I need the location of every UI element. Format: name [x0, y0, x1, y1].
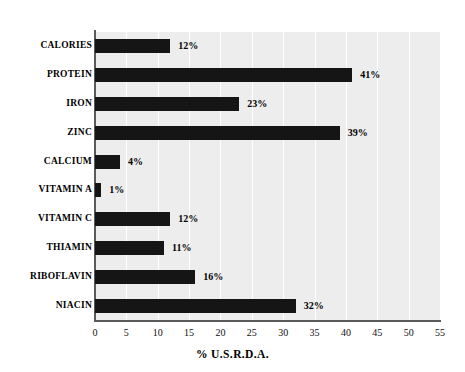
- bar: [95, 212, 170, 226]
- x-tick-label: 0: [80, 327, 110, 338]
- bar: [95, 241, 164, 255]
- gridline: [409, 32, 410, 320]
- bar-value-label: 4%: [128, 156, 143, 167]
- bar: [95, 97, 239, 111]
- bar-value-label: 12%: [178, 213, 198, 224]
- category-label-vitamin-a: VITAMIN A: [0, 184, 92, 194]
- bar: [95, 299, 296, 313]
- bar-value-label: 23%: [247, 98, 267, 109]
- x-tick-label: 15: [174, 327, 204, 338]
- bar-chart: 12%41%23%39%4%1%12%11%16%32% CALORIESPRO…: [0, 0, 465, 372]
- bar: [95, 155, 120, 169]
- category-label-zinc: ZINC: [0, 127, 92, 137]
- category-label-riboflavin: RIBOFLAVIN: [0, 271, 92, 281]
- bar-value-label: 16%: [203, 271, 223, 282]
- category-label-protein: PROTEIN: [0, 69, 92, 79]
- category-label-thiamin: THIAMIN: [0, 242, 92, 252]
- x-tick-label: 5: [111, 327, 141, 338]
- bar: [95, 126, 340, 140]
- x-tick-label: 10: [143, 327, 173, 338]
- bar: [95, 270, 195, 284]
- category-label-iron: IRON: [0, 98, 92, 108]
- bar-value-label: 39%: [348, 127, 368, 138]
- x-tick-label: 45: [362, 327, 392, 338]
- x-tick-label: 55: [425, 327, 455, 338]
- category-label-vitamin-c: VITAMIN C: [0, 213, 92, 223]
- x-tick-label: 25: [237, 327, 267, 338]
- bar: [95, 183, 101, 197]
- x-axis-line: [94, 320, 441, 322]
- bar-value-label: 1%: [109, 184, 124, 195]
- bar: [95, 68, 352, 82]
- x-tick-label: 50: [394, 327, 424, 338]
- category-label-calcium: CALCIUM: [0, 156, 92, 166]
- bar-value-label: 12%: [178, 40, 198, 51]
- category-labels: CALORIESPROTEINIRONZINCCALCIUMVITAMIN AV…: [0, 0, 92, 372]
- bar-value-label: 41%: [360, 69, 380, 80]
- x-axis-title: % U.S.R.D.A.: [0, 348, 465, 360]
- category-label-niacin: NIACIN: [0, 300, 92, 310]
- x-tick-label: 40: [331, 327, 361, 338]
- gridline: [440, 32, 441, 320]
- x-tick-label: 35: [300, 327, 330, 338]
- bar-value-label: 32%: [304, 300, 324, 311]
- category-label-calories: CALORIES: [0, 40, 92, 50]
- x-tick-label: 30: [268, 327, 298, 338]
- x-tick-label: 20: [205, 327, 235, 338]
- bar: [95, 39, 170, 53]
- bar-value-label: 11%: [172, 242, 191, 253]
